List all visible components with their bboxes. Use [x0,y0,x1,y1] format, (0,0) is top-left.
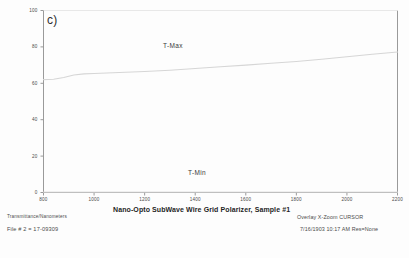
y-tick-label: 100 [20,8,38,13]
x-tick-label: 1000 [82,197,106,202]
x-tick-label: 2200 [386,197,409,202]
series-line-t-max [44,52,398,80]
series-label-tmin: T-Min [188,169,206,176]
x-tick-label: 1800 [284,197,308,202]
y-tick-label: 60 [20,81,38,86]
data-series [44,52,398,192]
y-tick-label: 80 [20,44,38,49]
x-tick-label: 800 [32,197,56,202]
x-tick-label: 1400 [183,197,207,202]
series-label-tmax: T-Max [163,42,183,49]
footer-quantity-label: Transmittance/Nanometers [7,214,67,219]
axis-tickmarks [41,11,398,196]
x-tick-label: 1600 [234,197,258,202]
x-tick-label: 1200 [133,197,157,202]
footer-timestamp: 7/16/1903 10:17 AM Res=None [300,226,378,232]
chart-title: Nano-Opto SubWave Wire Grid Polarizer, S… [113,206,290,213]
x-tick-label: 2000 [335,197,359,202]
y-tick-label: 20 [20,154,38,159]
panel-letter: c) [47,13,58,27]
axis-lines [44,11,398,193]
y-tick-label: 0 [20,190,38,195]
chart-screenshot: c) T-Max T-Min 020406080100 800100012001… [0,0,409,258]
footer-mode-label: Overlay X-Zoom CURSOR [297,214,363,220]
y-tick-label: 40 [20,117,38,122]
footer-file-id: File # 2 = 17-09309 [7,226,58,232]
